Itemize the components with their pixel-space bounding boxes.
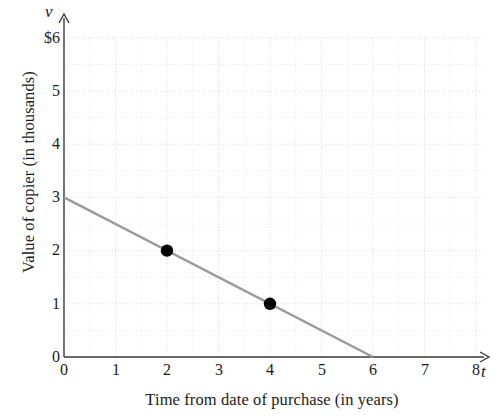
data-point (161, 244, 173, 256)
chart-figure: Value of copier (in thousands) Time from… (0, 0, 498, 418)
data-point (264, 298, 276, 310)
grid-major-lines (64, 38, 484, 357)
plot-area (0, 0, 498, 418)
